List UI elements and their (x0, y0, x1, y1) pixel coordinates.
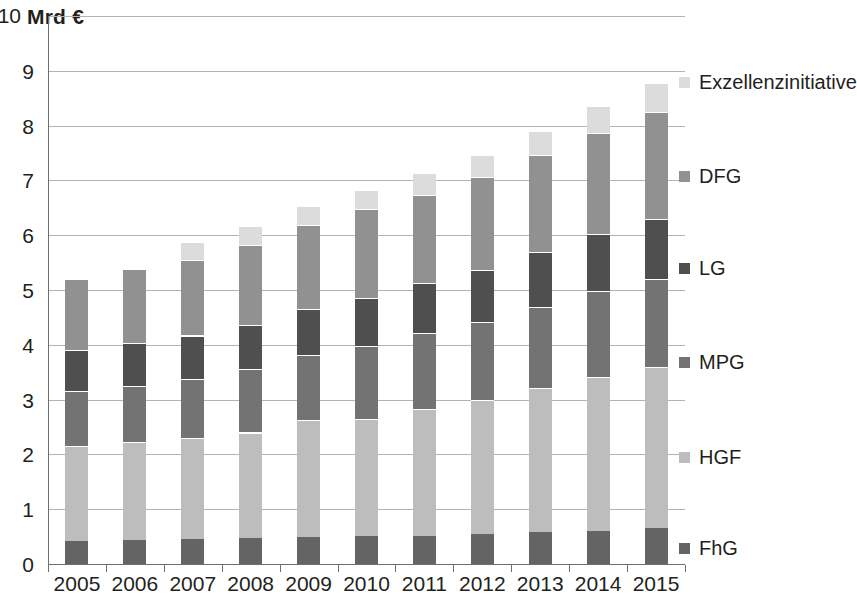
bar-2010 (355, 16, 378, 564)
legend-label: Exzellenzinitiative (699, 72, 857, 92)
bar-segment-hgf (181, 438, 204, 539)
bar-segment-fhg (587, 531, 610, 564)
bar-2006 (123, 16, 146, 564)
legend-label: FhG (699, 538, 738, 558)
bar-segment-mpg (587, 291, 610, 376)
x-tick-mark (569, 565, 570, 572)
bar-segment-mpg (413, 333, 436, 409)
bar-2012 (471, 16, 494, 564)
bar-segment-mpg (645, 279, 668, 367)
legend-swatch-icon (679, 263, 690, 274)
x-tick-label-2012: 2012 (452, 573, 512, 594)
x-tick-label-2006: 2006 (105, 573, 165, 594)
bar-segment-lg (471, 270, 494, 322)
bar-segment-lg (413, 283, 436, 333)
bar-segment-dfg (645, 112, 668, 219)
bar-segment-exzellenzinitiative (181, 242, 204, 260)
bar-segment-exzellenzinitiative (529, 131, 552, 155)
legend-item-lg[interactable]: LG (679, 258, 726, 278)
y-tick-label: 0 (0, 554, 34, 575)
bar-segment-fhg (123, 540, 146, 564)
bar-2011 (413, 16, 436, 564)
bar-segment-hgf (239, 433, 262, 539)
bar-segment-lg (239, 325, 262, 370)
x-tick-label-2015: 2015 (626, 573, 686, 594)
bar-segment-fhg (297, 537, 320, 564)
bar-segment-dfg (239, 245, 262, 324)
x-tick-label-2010: 2010 (337, 573, 397, 594)
y-tick-label: 8 (0, 116, 34, 137)
legend-item-dfg[interactable]: DFG (679, 166, 741, 186)
bar-segment-hgf (123, 442, 146, 540)
legend-swatch-icon (679, 77, 690, 88)
bar-segment-mpg (65, 391, 88, 446)
legend-swatch-icon (679, 452, 690, 463)
bar-segment-hgf (529, 388, 552, 532)
bar-segment-mpg (297, 355, 320, 421)
bar-segment-lg (529, 252, 552, 307)
y-tick-label: 10 (0, 5, 21, 26)
y-tick-label: 5 (0, 280, 34, 301)
bar-segment-exzellenzinitiative (239, 226, 262, 245)
bar-segment-dfg (355, 209, 378, 298)
bar-segment-fhg (529, 532, 552, 564)
bar-segment-exzellenzinitiative (297, 206, 320, 225)
plot-area (48, 16, 685, 564)
bar-2007 (181, 16, 204, 564)
x-tick-label-2011: 2011 (394, 573, 454, 594)
legend-item-fhg[interactable]: FhG (679, 538, 738, 558)
bar-segment-dfg (181, 260, 204, 336)
bar-segment-dfg (123, 269, 146, 343)
x-tick-mark (106, 565, 107, 572)
bar-segment-fhg (355, 536, 378, 564)
bar-segment-exzellenzinitiative (587, 106, 610, 133)
bar-segment-exzellenzinitiative (645, 83, 668, 112)
bar-segment-hgf (355, 419, 378, 536)
bar-segment-mpg (529, 307, 552, 388)
bar-segment-lg (587, 234, 610, 291)
y-tick-label: 7 (0, 170, 34, 191)
legend-swatch-icon (679, 357, 690, 368)
x-tick-label-2014: 2014 (568, 573, 628, 594)
bar-segment-mpg (355, 346, 378, 419)
bar-segment-dfg (471, 177, 494, 270)
legend-item-mpg[interactable]: MPG (679, 352, 745, 372)
bar-segment-hgf (297, 420, 320, 536)
legend-swatch-icon (679, 543, 690, 554)
x-tick-label-2007: 2007 (163, 573, 223, 594)
y-tick-label: 3 (0, 390, 34, 411)
bar-2015 (645, 16, 668, 564)
legend-label: HGF (699, 447, 741, 467)
legend-label: LG (699, 258, 726, 278)
legend-label: DFG (699, 166, 741, 186)
legend-item-exzellenzinitiative[interactable]: Exzellenzinitiative (679, 72, 857, 92)
legend-item-hgf[interactable]: HGF (679, 447, 741, 467)
y-axis-line (48, 16, 49, 565)
bar-segment-lg (65, 350, 88, 391)
bar-segment-lg (123, 343, 146, 386)
bar-segment-dfg (413, 195, 436, 284)
x-tick-mark (338, 565, 339, 572)
x-tick-mark (395, 565, 396, 572)
x-tick-label-2013: 2013 (510, 573, 570, 594)
bar-segment-hgf (471, 400, 494, 535)
bar-segment-fhg (471, 534, 494, 564)
bar-segment-mpg (239, 369, 262, 432)
legend-label: MPG (699, 352, 745, 372)
x-axis-line (48, 564, 685, 565)
x-tick-mark (280, 565, 281, 572)
bar-segment-fhg (645, 528, 668, 564)
bar-segment-dfg (297, 225, 320, 308)
legend-swatch-icon (679, 171, 690, 182)
bar-segment-lg (645, 219, 668, 279)
bar-segment-exzellenzinitiative (471, 155, 494, 177)
x-tick-label-2009: 2009 (279, 573, 339, 594)
bar-segment-dfg (529, 155, 552, 252)
bar-segment-dfg (587, 133, 610, 234)
bar-2014 (587, 16, 610, 564)
y-tick-label: 2 (0, 444, 34, 465)
bar-2008 (239, 16, 262, 564)
bar-segment-hgf (65, 446, 88, 541)
bar-2005 (65, 16, 88, 564)
